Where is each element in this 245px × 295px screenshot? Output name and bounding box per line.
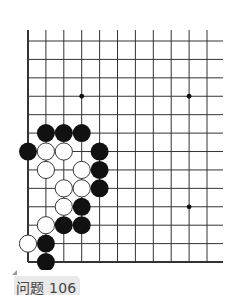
go-board (0, 0, 245, 270)
black-stone (37, 253, 55, 270)
white-stone (55, 198, 72, 215)
black-stone (55, 216, 73, 234)
star-point (79, 94, 84, 99)
black-stone (37, 124, 55, 142)
white-stone (73, 180, 90, 197)
white-stone (37, 143, 54, 160)
black-stone (73, 124, 91, 142)
black-stone (73, 216, 91, 234)
black-stone (19, 143, 37, 161)
black-stone (91, 179, 109, 197)
white-stone (37, 161, 54, 178)
white-stone (55, 180, 72, 197)
white-stone (37, 217, 54, 234)
black-stone (91, 143, 109, 161)
black-stone (73, 198, 91, 216)
star-point (187, 94, 192, 99)
white-stone (19, 235, 36, 252)
problem-label: 问题 106 (16, 277, 76, 295)
black-stone (37, 235, 55, 253)
black-stone (55, 124, 73, 142)
white-stone (55, 143, 72, 160)
label-corner-marker (12, 270, 17, 275)
white-stone (73, 161, 90, 178)
star-point (187, 204, 192, 209)
black-stone (91, 161, 109, 179)
